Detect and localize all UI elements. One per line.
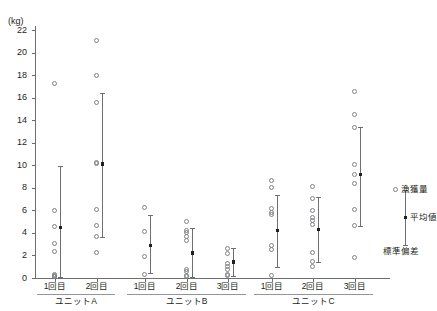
y-tick-mark: [32, 255, 35, 256]
data-point: [94, 234, 99, 239]
data-point: [94, 161, 99, 166]
data-point: [269, 185, 274, 190]
error-bar-cap: [58, 166, 63, 167]
x-tick-label: 2回目: [293, 282, 333, 291]
error-bar-cap: [190, 277, 195, 278]
x-tick-label: 1回目: [35, 282, 75, 291]
group-label: ユニットA: [31, 297, 121, 306]
y-tick-mark: [32, 75, 35, 76]
y-tick-mark: [32, 120, 35, 121]
error-bar-cap: [358, 226, 363, 227]
legend-label-sd: 標準偏差: [383, 247, 419, 256]
y-tick-label: 16: [5, 93, 27, 102]
data-point: [94, 250, 99, 255]
data-point: [352, 223, 357, 228]
x-tick-label: 1回目: [252, 282, 292, 291]
data-point: [352, 162, 357, 167]
data-point: [269, 212, 274, 217]
y-tick-label: 14: [5, 116, 27, 125]
group-bracket-line: [254, 294, 373, 295]
group-bracket-line: [127, 294, 246, 295]
data-point: [310, 196, 315, 201]
data-point: [269, 178, 274, 183]
y-tick-mark: [32, 278, 35, 279]
mean-marker: [359, 173, 363, 177]
data-point: [52, 81, 57, 86]
x-axis-line: [35, 278, 390, 279]
legend-catch-icon: [393, 187, 398, 192]
error-bar-cap: [100, 237, 105, 238]
data-point: [269, 273, 274, 278]
data-point: [142, 272, 147, 277]
data-point: [94, 38, 99, 43]
data-point: [352, 125, 357, 130]
data-point: [52, 249, 57, 254]
data-point: [352, 207, 357, 212]
data-point: [310, 184, 315, 189]
data-point: [225, 251, 230, 256]
error-bar-cap: [148, 273, 153, 274]
x-tick-label: 2回目: [77, 282, 117, 291]
data-point: [352, 112, 357, 117]
legend-label-mean: 平均値: [410, 213, 437, 222]
data-point: [352, 172, 357, 177]
mean-marker: [232, 260, 236, 264]
y-axis-line: [35, 26, 36, 278]
data-point: [310, 208, 315, 213]
mean-marker: [59, 226, 63, 230]
legend-label-catch: 漁獲量: [401, 185, 428, 194]
mean-marker: [191, 251, 195, 255]
data-point: [94, 100, 99, 105]
error-bar-cap: [100, 93, 105, 94]
error-bar-cap: [190, 228, 195, 229]
error-bar-cap: [316, 197, 321, 198]
y-tick-label: 0: [5, 274, 27, 283]
data-point: [184, 238, 189, 243]
data-point: [225, 246, 230, 251]
group-bracket-line: [37, 294, 115, 295]
error-bar-cap: [275, 195, 280, 196]
data-point: [94, 223, 99, 228]
error-bar-cap: [316, 262, 321, 263]
data-point: [52, 241, 57, 246]
mean-marker: [101, 162, 105, 166]
y-tick-mark: [32, 210, 35, 211]
error-bar-cap: [58, 277, 63, 278]
data-point: [352, 255, 357, 260]
y-tick-mark: [32, 98, 35, 99]
data-point: [310, 264, 315, 269]
error-bar: [360, 127, 361, 226]
x-tick-label: 3回目: [208, 282, 248, 291]
y-tick-label: 2: [5, 251, 27, 260]
data-point: [142, 254, 147, 259]
data-point: [225, 273, 230, 278]
data-point: [352, 89, 357, 94]
data-point: [352, 181, 357, 186]
mean-marker: [276, 229, 280, 233]
y-tick-label: 10: [5, 161, 27, 170]
y-tick-mark: [32, 188, 35, 189]
y-tick-label: 18: [5, 71, 27, 80]
y-tick-label: 20: [5, 48, 27, 57]
y-tick-mark: [32, 233, 35, 234]
y-tick-mark: [32, 143, 35, 144]
data-point: [52, 224, 57, 229]
legend-mean-icon: [404, 216, 408, 220]
error-bar: [60, 166, 61, 276]
y-tick-mark: [32, 30, 35, 31]
error-bar-cap: [148, 215, 153, 216]
y-tick-mark: [32, 165, 35, 166]
y-tick-label: 12: [5, 138, 27, 147]
error-bar-cap: [231, 248, 236, 249]
data-point: [310, 250, 315, 255]
y-tick-mark: [32, 53, 35, 54]
group-label: ユニットB: [142, 297, 232, 306]
y-tick-label: 4: [5, 228, 27, 237]
data-point: [52, 274, 57, 279]
data-point: [142, 229, 147, 234]
data-point: [269, 247, 274, 252]
y-tick-label: 22: [5, 26, 27, 35]
error-bar-cap: [358, 127, 363, 128]
mean-marker: [149, 244, 153, 248]
